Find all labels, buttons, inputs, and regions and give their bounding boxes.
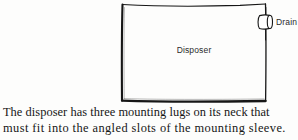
- scanned-page: Disposer Drain The disposer has three mo…: [0, 0, 298, 140]
- figure-caption: The disposer has three mounting lugs on …: [3, 105, 297, 136]
- caption-line-2: must fit into the angled slots of the mo…: [3, 121, 297, 137]
- caption-line-1: The disposer has three mounting lugs on …: [3, 105, 297, 121]
- drain-cylinder: [258, 15, 272, 29]
- drain-label: Drain: [276, 17, 297, 27]
- disposer-body-label: Disposer: [122, 45, 266, 55]
- disposer-diagram: Disposer Drain: [0, 0, 298, 106]
